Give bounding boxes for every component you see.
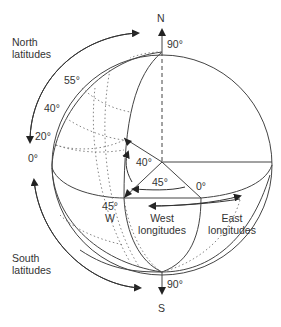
north-angle-label: 90°	[167, 38, 183, 50]
west-longitudes-line1: West	[134, 212, 190, 224]
lat-angle-arrow	[126, 152, 132, 182]
east-longitudes-line2: longitudes	[204, 224, 260, 236]
south-angle-label: 90°	[167, 278, 183, 290]
lat-label-40: 40°	[44, 102, 60, 114]
north-latitudes-line2: latitudes	[12, 48, 51, 60]
globe-diagram: N 90° North latitudes 55° 40° 20° 0° 40°…	[0, 0, 281, 327]
north-label: N	[157, 12, 165, 24]
lat-label-55: 55°	[64, 74, 80, 86]
lat-label-20: 20°	[35, 130, 51, 142]
south-label: S	[158, 302, 165, 314]
north-latitudes-line1: North	[12, 36, 38, 48]
arrowhead-45w	[124, 189, 132, 198]
west-arrow	[150, 199, 240, 206]
lat-20	[56, 145, 124, 152]
meridian-dotted-2	[105, 70, 140, 268]
prime-meridian-label: 0°	[196, 180, 206, 192]
west-longitudes-line2: longitudes	[134, 224, 190, 236]
west-longitude-letter: W	[100, 212, 120, 224]
east-longitudes-line1: East	[204, 212, 260, 224]
south-latitudes-line2: latitudes	[12, 264, 51, 276]
lat-40	[66, 118, 124, 140]
west-longitude-degree: 45°	[100, 200, 120, 212]
longitude-angle-label: 45°	[152, 176, 168, 188]
latitude-angle-label: 40°	[136, 156, 152, 168]
arrowhead-40	[124, 138, 132, 146]
lat-55	[82, 88, 130, 112]
lat-label-0: 0°	[28, 152, 38, 164]
south-latitudes-line1: South	[12, 252, 39, 264]
